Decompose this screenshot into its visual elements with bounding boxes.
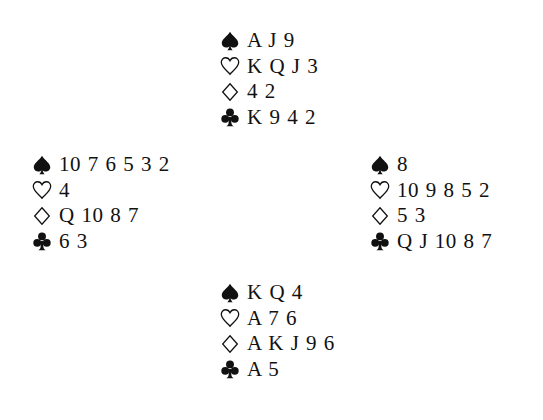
north-clubs-cards: K 9 4 2	[247, 105, 316, 130]
south-spades-row: K Q 4	[219, 280, 335, 306]
heart-outline-icon	[219, 307, 241, 329]
west-diamonds-row: Q 10 8 7	[31, 203, 170, 229]
north-hand: A J 9 K Q J 3 4 2 K 9 4 2	[219, 28, 318, 130]
diamond-outline-icon	[219, 81, 241, 103]
club-icon	[219, 358, 241, 380]
spade-icon	[369, 154, 391, 176]
south-spades-cards: K Q 4	[247, 280, 303, 305]
heart-outline-icon	[369, 179, 391, 201]
east-diamonds-cards: 5 3	[397, 203, 426, 228]
east-spades-cards: 8	[397, 152, 408, 177]
east-clubs-row: Q J 10 8 7	[369, 229, 492, 255]
east-hand: 8 10 9 8 5 2 5 3 Q J 10 8 7	[369, 152, 492, 254]
south-diamonds-row: A K J 9 6	[219, 331, 335, 357]
heart-outline-icon	[31, 179, 53, 201]
north-hearts-cards: K Q J 3	[247, 54, 318, 79]
west-hearts-cards: 4	[59, 178, 70, 203]
south-hand: K Q 4 A 7 6 A K J 9 6 A 5	[219, 280, 335, 382]
west-hand: 10 7 6 5 3 2 4 Q 10 8 7 6 3	[31, 152, 170, 254]
west-spades-row: 10 7 6 5 3 2	[31, 152, 170, 178]
diamond-outline-icon	[369, 205, 391, 227]
diamond-outline-icon	[219, 333, 241, 355]
south-diamonds-cards: A K J 9 6	[247, 331, 335, 356]
south-clubs-row: A 5	[219, 357, 335, 383]
club-icon	[219, 106, 241, 128]
spade-icon	[219, 282, 241, 304]
west-hearts-row: 4	[31, 178, 170, 204]
north-hearts-row: K Q J 3	[219, 54, 318, 80]
heart-outline-icon	[219, 55, 241, 77]
north-spades-cards: A J 9	[247, 28, 295, 53]
north-spades-row: A J 9	[219, 28, 318, 54]
south-hearts-cards: A 7 6	[247, 306, 297, 331]
west-clubs-cards: 6 3	[59, 229, 88, 254]
east-hearts-row: 10 9 8 5 2	[369, 178, 492, 204]
spade-icon	[219, 30, 241, 52]
north-diamonds-row: 4 2	[219, 79, 318, 105]
club-icon	[369, 230, 391, 252]
north-diamonds-cards: 4 2	[247, 79, 276, 104]
east-spades-row: 8	[369, 152, 492, 178]
club-icon	[31, 230, 53, 252]
diamond-outline-icon	[31, 205, 53, 227]
east-hearts-cards: 10 9 8 5 2	[397, 178, 490, 203]
east-clubs-cards: Q J 10 8 7	[397, 229, 492, 254]
west-diamonds-cards: Q 10 8 7	[59, 203, 139, 228]
north-clubs-row: K 9 4 2	[219, 105, 318, 131]
south-clubs-cards: A 5	[247, 357, 279, 382]
spade-icon	[31, 154, 53, 176]
south-hearts-row: A 7 6	[219, 306, 335, 332]
west-spades-cards: 10 7 6 5 3 2	[59, 152, 170, 177]
east-diamonds-row: 5 3	[369, 203, 492, 229]
west-clubs-row: 6 3	[31, 229, 170, 255]
